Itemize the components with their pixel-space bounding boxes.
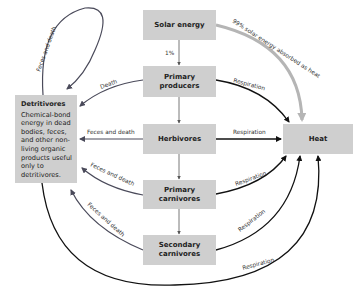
box-solar-energy: Solar energy (143, 10, 216, 40)
box-primary-carnivores-line2: carnivores (159, 195, 200, 204)
label-feces-death-secondary-carnivores: Feces and death (86, 201, 126, 238)
box-primary-producers-line2: producers (160, 82, 200, 91)
label-feces-death-loop: Feces and death (35, 25, 57, 72)
box-primary-producers: Primary producers (143, 66, 216, 97)
label-one-percent: 1% (165, 50, 175, 56)
label-respiration-primary-carnivores: Respiration (234, 170, 267, 188)
box-secondary-carnivores: Secondary carnivores (143, 235, 216, 265)
box-herbivores-label: Herbivores (158, 135, 201, 144)
box-detritivores: Detritivores Chemical-bond energy in dea… (15, 95, 77, 183)
arrow-detritivores-respiration (42, 156, 319, 285)
box-primary-carnivores-line1: Primary (164, 186, 195, 195)
box-solar-energy-label: Solar energy (154, 21, 204, 30)
label-respiration-secondary-carnivores: Respiration (237, 208, 267, 234)
label-feces-death-primary-carnivores: Feces and death (90, 161, 136, 187)
box-herbivores: Herbivores (143, 124, 216, 154)
box-primary-carnivores: Primary carnivores (143, 180, 216, 209)
box-primary-producers-line1: Primary (164, 73, 195, 82)
arrow-detritivores-loop (43, 8, 103, 95)
label-respiration-herbivores: Respiration (233, 129, 266, 136)
box-secondary-carnivores-line2: carnivores (159, 250, 200, 259)
arrow-secondary-carnivores-respiration (216, 156, 300, 250)
detritivores-description: Chemical-bond energy in dead bodies, fec… (21, 111, 73, 180)
label-ninety-nine-percent: 99% solar energy absorbed as heat (231, 18, 322, 80)
box-heat: Heat (283, 124, 353, 154)
box-heat-label: Heat (309, 135, 328, 144)
box-secondary-carnivores-line1: Secondary (159, 241, 200, 250)
label-feces-death-herbivores: Feces and death (87, 129, 135, 135)
detritivores-title: Detritivores (21, 100, 73, 109)
